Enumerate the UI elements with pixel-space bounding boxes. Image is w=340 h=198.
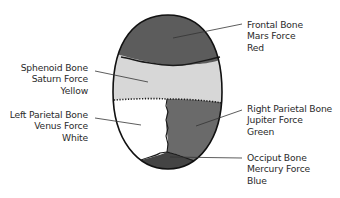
right-parietal-label: Right Parietal Bone Jupiter Force Green [247,103,332,137]
right-parietal-region [166,99,240,198]
right-parietal-bone-name: Right Parietal Bone [247,103,332,114]
left-parietal-force-name: Venus Force [10,120,88,131]
occiput-bone-name: Occiput Bone [247,152,310,163]
right-parietal-color-name: Green [247,126,332,137]
frontal-color-name: Red [247,42,303,53]
frontal-bone-name: Frontal Bone [247,19,303,30]
left-parietal-color-name: White [10,132,88,143]
occiput-region [100,152,240,198]
frontal-force-name: Mars Force [247,30,303,41]
frontal-label: Frontal Bone Mars Force Red [247,19,303,53]
sphenoid-bone-name: Sphenoid Bone [21,62,88,73]
sphenoid-label: Sphenoid Bone Saturn Force Yellow [21,62,88,96]
sphenoid-force-name: Saturn Force [21,73,88,84]
occiput-force-name: Mercury Force [247,163,310,174]
skull-bones-diagram: Frontal Bone Mars Force Red Sphenoid Bon… [0,0,340,198]
occiput-label: Occiput Bone Mercury Force Blue [247,152,310,186]
left-parietal-region [100,99,168,198]
left-parietal-bone-name: Left Parietal Bone [10,109,88,120]
occiput-color-name: Blue [247,175,310,186]
sphenoid-color-name: Yellow [21,85,88,96]
left-parietal-label: Left Parietal Bone Venus Force White [10,109,88,143]
right-parietal-force-name: Jupiter Force [247,114,332,125]
